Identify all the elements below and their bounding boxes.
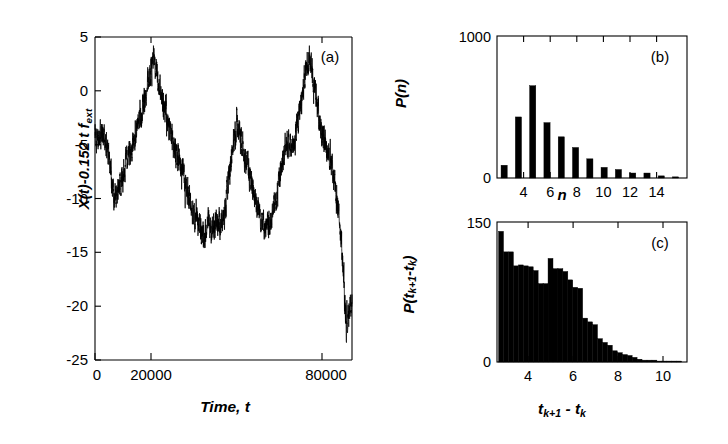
- bar: [583, 318, 588, 362]
- bar: [508, 252, 513, 362]
- bar: [630, 173, 636, 178]
- bar: [637, 359, 642, 362]
- bar: [573, 287, 578, 362]
- bar: [657, 361, 662, 362]
- bar: [598, 339, 603, 362]
- panel-a-ytick-5: -20: [66, 297, 88, 314]
- bar: [607, 345, 612, 362]
- figure-container: 5 0 -5 -10 -15 -20 -25 0 20000 80000 (a)…: [0, 0, 728, 444]
- panel-c-histogram-interval: 150 0 4 6 8 10 (c) P(tk+1-tk) tk+1 - tk: [372, 200, 728, 444]
- bar: [662, 361, 667, 362]
- panel-b-bars: [501, 86, 679, 178]
- bar: [578, 288, 583, 362]
- bar: [615, 169, 621, 178]
- panel-a-svg: 5 0 -5 -10 -15 -20 -25 0 20000 80000 (a): [0, 0, 372, 444]
- panel-c-xtick-3: 10: [655, 368, 671, 384]
- panel-b-svg: 1000 0 4 6 8 10 12 14 (b): [372, 0, 728, 210]
- bar: [587, 159, 593, 178]
- panel-b-histogram-n: 1000 0 4 6 8 10 12 14 (b) P(n) n: [372, 0, 728, 210]
- bar: [499, 231, 504, 362]
- panel-a-letter: (a): [321, 48, 339, 65]
- panel-b-ytick-1: 0: [483, 170, 491, 186]
- bar: [677, 361, 682, 362]
- bar: [544, 123, 550, 178]
- panel-a-axes: [95, 37, 352, 360]
- bar: [523, 266, 528, 362]
- panel-a-timeseries: 5 0 -5 -10 -15 -20 -25 0 20000 80000 (a)…: [0, 0, 372, 444]
- bar: [515, 117, 521, 178]
- bar: [504, 252, 509, 362]
- panel-c-ytick-0: 150: [467, 215, 491, 231]
- panel-b-x-ticks: [524, 36, 657, 178]
- bar: [617, 353, 622, 362]
- panel-c-xtick-0: 4: [524, 368, 532, 384]
- bar: [543, 284, 548, 362]
- panel-a-ytick-6: -25: [66, 351, 88, 368]
- panel-a-ylabel: X(t)-0.152 t fext: [76, 44, 94, 274]
- panel-a-y-ticks: [95, 37, 101, 360]
- panel-c-ytick-1: 0: [483, 354, 491, 370]
- bar: [642, 360, 647, 362]
- panel-b-ylabel: P(n): [392, 59, 409, 129]
- bar: [622, 355, 627, 362]
- bar: [501, 165, 507, 178]
- bar: [672, 177, 678, 178]
- bar: [528, 267, 533, 362]
- bar: [568, 280, 573, 362]
- bar: [558, 269, 563, 362]
- bar: [588, 322, 593, 362]
- panel-a-xtick-2: 80000: [305, 366, 347, 383]
- bar: [563, 271, 568, 362]
- bar: [601, 167, 607, 178]
- bar: [647, 360, 652, 362]
- bar: [518, 265, 523, 362]
- bar: [672, 361, 677, 362]
- bar: [632, 357, 637, 362]
- panel-a-xtick-1: 20000: [130, 366, 172, 383]
- bar: [667, 361, 672, 362]
- panel-a-xlabel: Time, t: [95, 398, 355, 416]
- bar: [658, 176, 664, 178]
- bar: [513, 266, 518, 362]
- bar: [553, 269, 558, 362]
- bar: [593, 325, 598, 362]
- panel-c-letter: (c): [651, 234, 669, 251]
- bar: [533, 271, 538, 362]
- bar: [627, 355, 632, 362]
- bar: [602, 342, 607, 362]
- bar: [572, 147, 578, 178]
- bar: [652, 360, 657, 362]
- bar: [612, 351, 617, 362]
- panel-b-letter: (b): [651, 48, 669, 65]
- bar: [530, 86, 536, 178]
- bar: [538, 284, 543, 362]
- panel-c-xtick-2: 8: [614, 368, 622, 384]
- bar: [644, 173, 650, 178]
- panel-a-xtick-0: 0: [93, 366, 101, 383]
- bar: [558, 137, 564, 178]
- panel-c-ylabel: P(tk+1-tk): [400, 209, 419, 359]
- panel-a-trace: [95, 46, 352, 343]
- bar: [548, 258, 553, 362]
- panel-c-xtick-1: 6: [569, 368, 577, 384]
- panel-a-ytick-0: 5: [80, 28, 88, 45]
- panel-c-xlabel: tk+1 - tk: [432, 400, 692, 419]
- panel-a-x-ticks: [95, 37, 322, 360]
- panel-b-ytick-0: 1000: [459, 29, 491, 45]
